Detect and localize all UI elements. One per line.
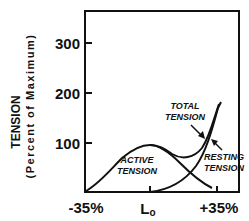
x-tick-label-l0: Lo bbox=[140, 200, 155, 218]
x-tick-label-plus35: +35% bbox=[200, 199, 239, 216]
y-axis-subtitle: (Percent of Maximum) bbox=[24, 34, 36, 179]
total-label-line2: TENSION bbox=[165, 112, 206, 122]
y-tick-label-300: 300 bbox=[55, 35, 80, 52]
active-label-line1: ACTIVE bbox=[119, 155, 154, 165]
total-label-line1: TOTAL bbox=[170, 101, 199, 111]
x-tick-label-minus35: -35% bbox=[68, 199, 103, 216]
resting-label-line1: RESTING bbox=[204, 152, 244, 162]
active-label-line2: TENSION bbox=[117, 166, 158, 176]
length-tension-chart: 300 200 100 -35% Lo +35% TENSION (Percen… bbox=[0, 0, 249, 221]
y-tick-label-200: 200 bbox=[55, 85, 80, 102]
y-tick-label-100: 100 bbox=[55, 135, 80, 152]
resting-label-line2: TENSION bbox=[204, 163, 245, 173]
y-axis-title: TENSION bbox=[9, 95, 23, 148]
